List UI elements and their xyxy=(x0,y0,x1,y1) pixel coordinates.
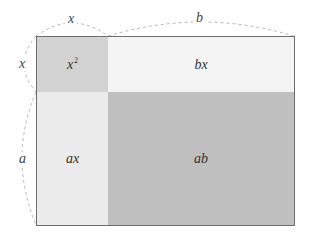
region-ax-label: ax xyxy=(66,151,79,167)
dimension-label-left-a: a xyxy=(16,152,29,166)
region-bx-label: bx xyxy=(194,57,207,73)
x-squared-exponent: 2 xyxy=(74,56,78,65)
x-squared-base: x xyxy=(67,57,73,72)
dimension-label-left-x: x xyxy=(16,57,28,71)
region-ab-label: ab xyxy=(194,151,208,167)
region-x-squared: x2 xyxy=(36,36,109,93)
area-model-diagram: x2 bx ax ab x b x a xyxy=(0,0,311,240)
region-ab: ab xyxy=(108,92,295,226)
region-ax: ax xyxy=(36,92,109,226)
region-x-squared-label: x2 xyxy=(67,56,78,73)
region-bx: bx xyxy=(108,36,295,93)
dimension-label-top-b: b xyxy=(193,11,206,25)
dimension-label-top-x: x xyxy=(65,12,77,26)
